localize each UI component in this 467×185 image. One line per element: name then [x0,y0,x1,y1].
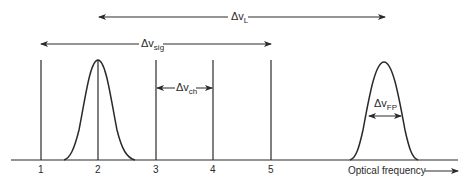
optical-frequency-diagram: ΔvL Δvsig Δvch ΔvFP 1 2 3 4 5 Opt [0,0,467,185]
tick-label-2: 2 [95,164,101,175]
delta-v-L-arrow: ΔvL [99,10,385,25]
tick-label-5: 5 [268,164,274,175]
delta-v-sig-label: Δvsig [141,37,164,52]
tick-label-3: 3 [153,164,159,175]
channel-lines [41,60,271,160]
axis-label-group: Optical frequency [348,165,458,176]
tick-label-1: 1 [38,164,44,175]
delta-v-FP-arrow: ΔvFP [369,97,401,116]
tick-labels: 1 2 3 4 5 [38,164,274,175]
tick-label-4: 4 [210,164,216,175]
fabry-perot-passband-curve [350,62,418,160]
delta-v-L-label: ΔvL [231,10,249,25]
signal-spectrum-curve [64,60,135,160]
delta-v-ch-label: Δvch [176,81,197,96]
delta-v-FP-label: ΔvFP [374,97,397,112]
delta-v-sig-arrow: Δvsig [41,37,271,52]
delta-v-ch-arrow: Δvch [157,81,212,96]
axis-label: Optical frequency [348,165,426,176]
